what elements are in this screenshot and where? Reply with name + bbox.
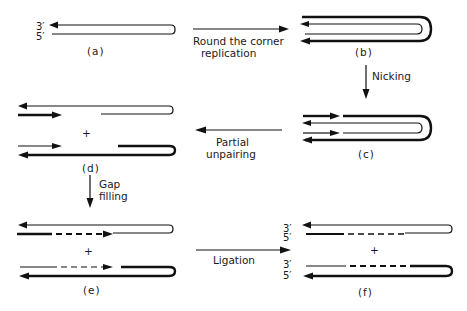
arrowhead xyxy=(363,89,370,99)
arrowhead xyxy=(280,247,291,254)
step-label-gap-2: filling xyxy=(99,190,128,202)
step-label-replication-2: replication xyxy=(201,47,256,59)
arrowhead xyxy=(87,198,94,208)
arrowhead-outer-bottom xyxy=(302,137,312,144)
arrowhead xyxy=(279,26,289,33)
arrowhead-top-3prime xyxy=(302,222,311,229)
diagram-canvas: 3′ 5′ (a) Round the corner replication (… xyxy=(0,0,467,311)
inner-hairpin-strand xyxy=(307,123,422,133)
arrowhead-top-short xyxy=(52,112,62,119)
panel-c: (c) xyxy=(302,113,431,161)
arrowhead-top-filled xyxy=(103,231,113,238)
arrowhead-3prime xyxy=(49,22,58,29)
step-label-unpairing-2: unpairing xyxy=(206,148,256,160)
bottom-hairpin-strand xyxy=(24,267,175,276)
bottom-hairpin-strand xyxy=(22,146,175,155)
panel-caption-a: (a) xyxy=(87,45,105,57)
end-label-5prime-top: 5′ xyxy=(283,232,292,243)
panel-f: 3′ 5′ + 3′ 5′ (f) xyxy=(283,222,452,299)
panel-caption-e: (e) xyxy=(83,284,101,296)
panel-caption-c: (c) xyxy=(358,148,375,160)
outer-strand-right xyxy=(305,116,431,140)
arrowhead-inner-top xyxy=(302,120,311,126)
step-label-gap-1: Gap xyxy=(99,178,121,190)
arrowhead-outer-top xyxy=(330,113,340,120)
step-label-nicking: Nicking xyxy=(372,70,411,82)
panel-a: 3′ 5′ (a) xyxy=(36,21,175,57)
outer-strand xyxy=(302,17,431,41)
end-label-5prime: 5′ xyxy=(36,31,45,42)
arrowhead xyxy=(195,127,206,134)
panel-caption-d: (d) xyxy=(82,162,100,174)
arrowhead-top-3prime xyxy=(18,222,27,229)
panel-b: (b) xyxy=(300,17,431,58)
top-hairpin-strand xyxy=(21,225,173,233)
top-hairpin-strand xyxy=(306,225,452,233)
step-arrow-replication: Round the corner replication xyxy=(193,26,289,60)
arrowhead-inner xyxy=(300,21,309,27)
hairpin-strand xyxy=(52,25,175,34)
step-label-replication-1: Round the corner xyxy=(193,35,285,47)
arrowhead-outer xyxy=(300,38,310,45)
plus-sign: + xyxy=(82,127,91,139)
arrowhead-bottom-5prime xyxy=(303,273,313,280)
step-arrow-gap-filling: Gap filling xyxy=(87,175,128,208)
arrowhead-inner-bottom xyxy=(330,130,340,136)
end-label-5prime-bottom: 5′ xyxy=(283,270,292,281)
top-hairpin-strand xyxy=(21,106,173,114)
panel-caption-b: (b) xyxy=(355,46,373,58)
arrowhead-bottom-5prime xyxy=(18,152,28,159)
arrowhead-bottom-5prime xyxy=(19,273,29,280)
panel-e: + (e) xyxy=(17,222,175,297)
step-arrow-ligation: Ligation xyxy=(196,247,291,267)
panel-d: + (d) xyxy=(18,103,175,175)
step-arrow-partial-unpairing: Partial unpairing xyxy=(195,127,282,161)
step-arrow-nicking: Nicking xyxy=(363,65,411,99)
panel-caption-f: (f) xyxy=(358,286,373,298)
step-label-unpairing-1: Partial xyxy=(216,136,249,148)
inner-hairpin-strand xyxy=(305,24,422,34)
plus-sign: + xyxy=(84,245,93,257)
plus-sign: + xyxy=(370,244,379,256)
step-label-ligation: Ligation xyxy=(213,254,255,266)
bottom-hairpin-strand xyxy=(308,266,452,276)
arrowhead-bottom-short xyxy=(52,143,62,149)
arrowhead-top-3prime xyxy=(18,103,27,110)
arrowhead-bottom-filled xyxy=(103,264,113,270)
end-label-3prime-bottom: 3′ xyxy=(283,259,292,270)
